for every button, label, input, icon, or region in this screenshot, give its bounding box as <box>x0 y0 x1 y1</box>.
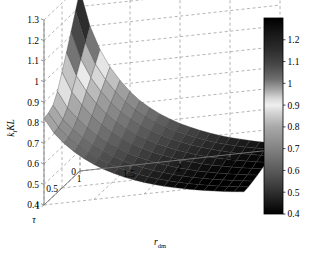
colorbar-tick-label: 0.7 <box>288 144 300 154</box>
z-axis-tick-label: 1.2 <box>27 36 39 46</box>
colorbar-tick-label: 0.8 <box>288 122 300 132</box>
colorbar-tick-label: 1.2 <box>288 35 300 45</box>
colorbar-tick-label: 0.9 <box>288 101 300 111</box>
y-axis-tick-label: 1 <box>35 201 40 211</box>
figure-3d-surface-plot: 0.40.50.60.70.80.911.11.21.311.522.5310.… <box>0 0 313 254</box>
y-axis-tick-label: 0 <box>71 167 76 177</box>
colorbar-tick-label: 1.1 <box>288 57 300 67</box>
z-axis-tick-label: 0.9 <box>27 98 39 108</box>
z-axis-label: kiKL <box>6 119 18 137</box>
y-axis-tick-label: 0.5 <box>46 184 58 194</box>
z-axis-tick-label: 0.6 <box>27 159 39 169</box>
colorbar-gradient <box>264 18 283 214</box>
y-axis-label: τ <box>32 215 36 225</box>
z-axis-tick-label: 0.8 <box>27 118 39 128</box>
z-axis-tick-label: 1.1 <box>27 56 39 66</box>
z-axis-tick-label: 0.7 <box>27 139 39 149</box>
z-axis-tick-label: 1.3 <box>27 15 39 25</box>
z-axis-tick-label: 1 <box>34 77 39 87</box>
surface-plot-canvas: 0.40.50.60.70.80.911.11.21.311.522.5310.… <box>0 0 313 254</box>
x-axis-tick-label: 2.5 <box>223 158 235 168</box>
x-axis-tick-label: 1.5 <box>123 169 135 179</box>
colorbar-tick-label: 0.4 <box>288 209 300 219</box>
x-axis-tick-label: 2 <box>177 163 182 173</box>
x-axis-tick-label: 1 <box>77 174 82 184</box>
z-axis-tick-label: 0.5 <box>27 180 39 190</box>
colorbar-tick-label: 1 <box>288 79 293 89</box>
z-axis-label-text: kiKL <box>6 119 18 137</box>
colorbar-tick-label: 0.6 <box>288 166 300 176</box>
colorbar-tick-label: 0.5 <box>288 188 300 198</box>
